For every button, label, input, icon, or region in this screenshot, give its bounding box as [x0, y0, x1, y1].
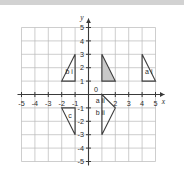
y-tick-label: 3: [80, 50, 84, 59]
tick-labels: -5-4-3-2-1234554321-1-2-3-4-50xy: [18, 13, 166, 167]
origin-label: 0: [94, 85, 98, 94]
y-axis-name: y: [79, 13, 84, 22]
y-axis-arrow: [86, 19, 91, 24]
triangle-label: c: [68, 112, 72, 119]
figure-page: -5-4-3-2-1234554321-1-2-3-4-50xy b ia ic…: [0, 0, 184, 184]
triangle-label: a i: [145, 68, 153, 75]
y-tick-label: 5: [80, 23, 84, 32]
x-tick-label: -3: [45, 99, 51, 108]
y-tick-label: 1: [80, 77, 84, 86]
shape-annotation: b ii: [96, 109, 105, 116]
x-tick-label: -4: [32, 99, 38, 108]
triangle-label: b i: [65, 68, 73, 75]
y-tick-label: -2: [78, 117, 84, 126]
x-tick-label: 4: [140, 99, 144, 108]
y-tick-label: 2: [80, 63, 84, 72]
y-tick-label: -5: [78, 157, 84, 166]
x-tick-label: -5: [18, 99, 24, 108]
x-axis-name: x: [161, 97, 166, 106]
y-tick-label: -4: [78, 144, 84, 153]
y-tick-label: -1: [78, 104, 84, 113]
x-tick-label: -2: [58, 99, 64, 108]
coordinate-plane-svg: -5-4-3-2-1234554321-1-2-3-4-50xy b ia ic…: [0, 5, 184, 184]
shape-annotation: a ii: [96, 97, 105, 104]
x-tick-label: 3: [127, 99, 131, 108]
y-tick-label: -3: [78, 130, 84, 139]
coordinate-grid-figure: -5-4-3-2-1234554321-1-2-3-4-50xy b ia ic…: [0, 5, 184, 184]
y-tick-label: 4: [80, 37, 84, 46]
x-tick-label: 5: [154, 99, 158, 108]
